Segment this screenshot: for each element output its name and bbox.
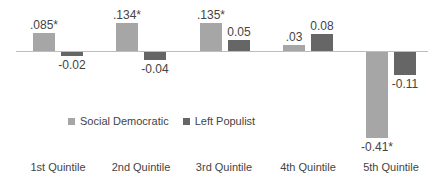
bar-left-populist bbox=[394, 52, 416, 75]
value-label: -0.41* bbox=[357, 140, 397, 154]
legend-item-social-democratic: Social Democratic bbox=[68, 115, 169, 127]
bar-social-democratic bbox=[33, 33, 55, 51]
value-label: .134* bbox=[107, 8, 147, 22]
value-label: -0.02 bbox=[52, 58, 92, 72]
x-tick-label: 3rd Quintile bbox=[182, 161, 266, 173]
x-tick-label: 4th Quintile bbox=[266, 161, 350, 173]
legend-item-left-populist: Left Populist bbox=[183, 115, 256, 127]
value-label: .085* bbox=[24, 18, 64, 32]
legend-swatch-social-democratic bbox=[68, 118, 75, 125]
value-label: -0.04 bbox=[135, 62, 175, 76]
value-label: -0.11 bbox=[385, 77, 425, 91]
x-tick-label: 1st Quintile bbox=[16, 161, 100, 173]
x-tick-label: 5th Quintile bbox=[349, 161, 433, 173]
bar-social-democratic bbox=[116, 23, 138, 51]
bar-left-populist bbox=[311, 34, 333, 51]
legend: Social Democratic Left Populist bbox=[68, 115, 269, 127]
value-label: 0.05 bbox=[219, 25, 259, 39]
x-tick-label: 2nd Quintile bbox=[99, 161, 183, 173]
legend-label-social-democratic: Social Democratic bbox=[80, 115, 169, 127]
legend-label-left-populist: Left Populist bbox=[195, 115, 256, 127]
legend-swatch-left-populist bbox=[183, 118, 190, 125]
value-label: 0.08 bbox=[302, 19, 342, 33]
bar-social-democratic bbox=[283, 45, 305, 51]
bar-social-democratic bbox=[366, 52, 388, 138]
grouped-bar-chart: .085*.134*.135*.03-0.41*-0.02-0.040.050.… bbox=[0, 0, 444, 185]
bar-left-populist bbox=[61, 52, 83, 56]
bar-left-populist bbox=[228, 40, 250, 51]
value-label: .135* bbox=[191, 8, 231, 22]
bar-left-populist bbox=[144, 52, 166, 60]
